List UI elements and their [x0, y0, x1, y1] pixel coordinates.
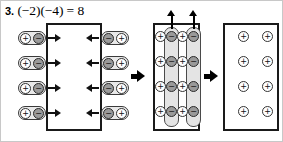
- arrow-up-icon: [189, 10, 198, 29]
- negative-chip: −: [103, 83, 114, 94]
- result-chip: +: [262, 56, 273, 67]
- negative-chip: −: [33, 108, 44, 119]
- positive-chip: +: [116, 33, 127, 44]
- problem-expression: (−2)(−4) = 8: [17, 3, 84, 18]
- grid-chip: +: [155, 81, 166, 92]
- negative-chip: −: [103, 108, 114, 119]
- grid-chip: −: [166, 56, 177, 67]
- arrow-left-icon: [86, 58, 99, 67]
- arrow-right-icon: [48, 58, 61, 67]
- zero-pair-pill-right-2: − +: [101, 56, 129, 70]
- arrow-left-icon: [86, 83, 99, 92]
- grid-chip: +: [177, 31, 188, 42]
- zero-pair-pill-left-2: + −: [18, 56, 46, 70]
- positive-chip: +: [20, 108, 31, 119]
- zero-pair-pill-right-3: − +: [101, 81, 129, 95]
- result-chip: +: [262, 31, 273, 42]
- arrow-stage2-to-stage3-icon: [204, 70, 218, 83]
- arrow-up-icon: [167, 10, 176, 29]
- grid-chip: −: [188, 31, 199, 42]
- positive-chip: +: [116, 58, 127, 69]
- problem-label: 3. (−2)(−4) = 8: [5, 2, 84, 20]
- grid-chip: −: [188, 106, 199, 117]
- result-chip: +: [262, 106, 273, 117]
- positive-chip: +: [116, 83, 127, 94]
- positive-chip: +: [20, 83, 31, 94]
- zero-pair-pill-left-1: + −: [18, 31, 46, 45]
- integer-chip-multiplication-figure: 3. (−2)(−4) = 8 + − + − + − + − − + − + …: [0, 0, 283, 142]
- positive-chip: +: [20, 58, 31, 69]
- grid-chip: −: [166, 106, 177, 117]
- arrow-right-icon: [48, 33, 61, 42]
- arrow-stage1-to-stage2-icon: [131, 70, 145, 83]
- zero-pair-pill-left-3: + −: [18, 81, 46, 95]
- arrow-left-icon: [86, 33, 99, 42]
- result-chip: +: [238, 106, 249, 117]
- problem-number: 3.: [5, 5, 14, 17]
- grid-chip: −: [166, 81, 177, 92]
- arrow-left-icon: [86, 108, 99, 117]
- positive-chip: +: [20, 33, 31, 44]
- negative-chip: −: [103, 58, 114, 69]
- arrow-right-icon: [48, 108, 61, 117]
- grid-chip: +: [177, 106, 188, 117]
- negative-chip: −: [103, 33, 114, 44]
- grid-chip: +: [177, 56, 188, 67]
- result-chip: +: [238, 31, 249, 42]
- grid-chip: −: [188, 81, 199, 92]
- grid-chip: +: [155, 56, 166, 67]
- grid-chip: +: [155, 106, 166, 117]
- grid-chip: −: [166, 31, 177, 42]
- result-chip: +: [238, 56, 249, 67]
- arrow-right-icon: [48, 83, 61, 92]
- result-chip: +: [238, 81, 249, 92]
- negative-chip: −: [33, 83, 44, 94]
- negative-chip: −: [33, 58, 44, 69]
- grid-chip: +: [155, 31, 166, 42]
- grid-chip: −: [188, 56, 199, 67]
- positive-chip: +: [116, 108, 127, 119]
- zero-pair-pill-right-1: − +: [101, 31, 129, 45]
- zero-pair-pill-right-4: − +: [101, 106, 129, 120]
- result-chip: +: [262, 81, 273, 92]
- grid-chip: +: [177, 81, 188, 92]
- negative-chip: −: [33, 33, 44, 44]
- zero-pair-pill-left-4: + −: [18, 106, 46, 120]
